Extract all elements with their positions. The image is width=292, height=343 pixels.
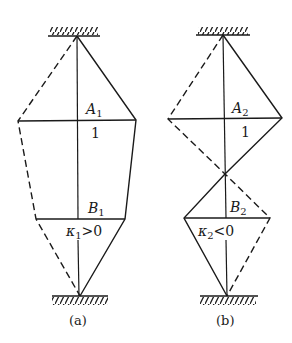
vertical-axis-a [77, 36, 78, 219]
solid-profile-b [184, 35, 282, 296]
vertical-axis-a-lower [78, 240, 79, 296]
kappa-label-a: κ1>0 [65, 223, 102, 241]
label-A1: A1 [84, 101, 103, 119]
top-support-b [196, 27, 250, 35]
bottom-support-a [52, 296, 108, 305]
top-support-a [48, 27, 100, 36]
caption-b: (b) [216, 313, 234, 328]
dashed-profile-a [18, 36, 80, 296]
vertical-axis-b [223, 35, 226, 218]
bottom-support-b [200, 296, 258, 305]
panel-b: A2 1 B2 κ2<0 (b) [168, 27, 282, 328]
diagram-canvas: A1 1 B1 κ1>0 (a) A2 1 B2 κ2<0 (b) [0, 0, 292, 343]
label-B2: B2 [229, 199, 247, 217]
vertical-axis-b-lower [226, 240, 227, 296]
value-1-b: 1 [241, 124, 250, 140]
dashed-profile-b [168, 35, 270, 296]
kappa-label-b: κ2<0 [197, 223, 234, 241]
label-B1: B1 [87, 200, 105, 218]
panel-a: A1 1 B1 κ1>0 (a) [18, 27, 136, 328]
value-1-a: 1 [91, 125, 100, 141]
label-A2: A2 [230, 100, 249, 118]
line-A2 [168, 118, 282, 119]
solid-profile-a [77, 36, 136, 296]
caption-a: (a) [69, 313, 87, 328]
line-A1 [18, 120, 136, 121]
